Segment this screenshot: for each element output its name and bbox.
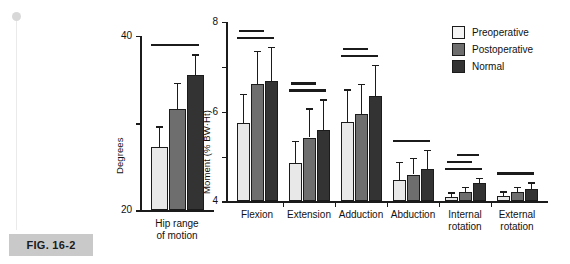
error-bar — [243, 94, 244, 123]
error-bar-cap — [514, 187, 521, 188]
error-bar-cap — [358, 84, 365, 85]
chart-panel-hip-range-of-motion: Degrees 02040Hip range of motion — [112, 22, 212, 222]
bar — [459, 192, 472, 201]
y-axis-tick: 8 — [222, 22, 226, 23]
significance-bar — [239, 30, 264, 32]
significance-bar — [151, 44, 200, 46]
error-bar-cap — [344, 89, 351, 90]
bar — [393, 180, 406, 201]
error-bar-cap — [320, 99, 327, 100]
error-bar — [295, 141, 296, 163]
legend-item: Normal — [452, 58, 564, 75]
x-axis-tick — [283, 203, 284, 207]
bar — [341, 122, 354, 202]
bar — [421, 169, 434, 202]
y-axis-label-right: Moment (% BW·Ht) — [201, 110, 212, 194]
x-axis-tick — [491, 203, 492, 207]
error-bar — [375, 65, 376, 96]
x-axis-category-label: Extension — [283, 209, 335, 221]
error-bar — [323, 99, 324, 129]
error-bar-cap — [396, 162, 403, 163]
error-bar-cap — [462, 187, 469, 188]
significance-bar — [445, 168, 483, 170]
bar — [497, 196, 510, 202]
legend: PreoperativePostoperativeNormal — [452, 24, 564, 75]
bar — [445, 197, 458, 201]
bar — [251, 84, 264, 202]
error-bar-cap — [410, 158, 417, 159]
error-bar-cap — [174, 83, 181, 84]
y-axis-label-left: Degrees — [114, 137, 125, 174]
error-bar-cap — [424, 150, 431, 151]
y-axis-tick: 2 — [222, 157, 226, 158]
bar — [303, 138, 316, 202]
bar — [407, 175, 420, 202]
bar — [369, 96, 382, 201]
significance-bar — [343, 48, 368, 50]
y-axis-tick: 6 — [222, 67, 226, 68]
x-axis-category-label: Adduction — [335, 209, 387, 221]
error-bar-cap — [448, 192, 455, 193]
y-axis-tick-label: 40 — [121, 31, 132, 41]
y-axis-tick: 4 — [222, 112, 226, 113]
x-axis-tick — [439, 203, 440, 207]
error-bar-cap — [254, 51, 261, 52]
page-spot-artifact — [12, 12, 21, 21]
bar — [237, 123, 250, 201]
significance-bar — [393, 140, 431, 142]
bar — [151, 147, 168, 210]
legend-swatch-icon — [452, 43, 465, 56]
significance-bar — [497, 172, 535, 174]
bar — [265, 81, 278, 201]
x-axis-category-label: Hip range of motion — [146, 218, 208, 241]
error-bar-cap — [306, 108, 313, 109]
x-axis-tick — [387, 203, 388, 207]
error-bar-cap — [240, 94, 247, 95]
x-axis-category-label: Flexion — [231, 209, 283, 221]
y-axis-tick: 40 — [136, 36, 140, 37]
x-axis-tick — [335, 203, 336, 207]
plot-area-left: 02040Hip range of motion — [140, 36, 208, 212]
y-axis-tick-label: 4 — [212, 196, 218, 206]
x-axis-category-label: External rotation — [491, 209, 543, 232]
error-bar — [399, 162, 400, 180]
legend-item: Preoperative — [452, 24, 564, 41]
x-axis-category-label: Abduction — [387, 209, 439, 221]
error-bar — [159, 126, 160, 147]
legend-item-label: Postoperative — [472, 44, 533, 55]
y-axis-line-left — [140, 36, 142, 212]
y-axis-tick-label: 20 — [121, 205, 132, 215]
bar — [511, 192, 524, 201]
error-bar — [427, 150, 428, 169]
significance-bar — [341, 55, 379, 57]
x-axis-category-label: Internal rotation — [439, 209, 491, 232]
error-bar-cap — [292, 141, 299, 142]
y-axis-tick: 0 — [222, 201, 226, 202]
significance-bar — [289, 89, 327, 91]
legend-item-label: Normal — [472, 61, 504, 72]
error-bar — [309, 108, 310, 137]
figure-16-2: Degrees 02040Hip range of motion Moment … — [0, 0, 570, 264]
error-bar — [195, 54, 196, 75]
error-bar-cap — [528, 182, 535, 183]
error-bar-cap — [372, 65, 379, 66]
legend-item: Postoperative — [452, 41, 564, 58]
figure-caption-box: FIG. 16-2 — [9, 234, 93, 256]
legend-swatch-icon — [452, 60, 465, 73]
error-bar — [257, 51, 258, 84]
significance-bar — [447, 161, 472, 163]
legend-swatch-icon — [452, 26, 465, 39]
error-bar-cap — [268, 47, 275, 48]
page-edge-artifact — [16, 14, 17, 230]
bar — [355, 114, 368, 201]
significance-bar — [237, 37, 275, 39]
bar — [473, 183, 486, 201]
y-axis-tick-label: 6 — [212, 107, 218, 117]
y-axis-line-right — [226, 22, 228, 203]
error-bar-cap — [192, 54, 199, 55]
bar — [525, 189, 538, 201]
bar — [317, 130, 330, 202]
error-bar — [271, 47, 272, 82]
significance-bar — [457, 154, 480, 156]
legend-item-label: Preoperative — [472, 27, 529, 38]
